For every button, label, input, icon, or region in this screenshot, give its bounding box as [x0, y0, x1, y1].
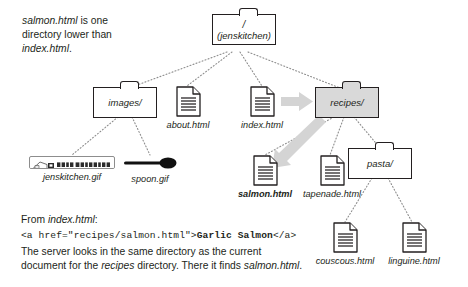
folder-tab-mask [343, 87, 360, 89]
node-about-file[interactable]: about.html [160, 86, 216, 131]
edge-recipes-tapenade [330, 117, 344, 155]
folder-label-recipes: recipes/ [330, 97, 363, 108]
edge-root-recipes [248, 52, 340, 88]
root-slash: / [217, 19, 271, 30]
caption-jenskitchen-gif: jenskitchen.gif [43, 172, 101, 183]
folder-icon-root: / (jenskitchen) [212, 14, 276, 45]
caption-salmon: salmon.html [238, 189, 292, 200]
folder-icon-pasta: pasta/ [348, 148, 412, 179]
edge-pasta-linguine [388, 178, 412, 222]
folder-label-root: / (jenskitchen) [217, 19, 271, 41]
file-icon-couscous [333, 222, 358, 253]
folder-tab-mask [376, 148, 393, 150]
edge-root-index [240, 52, 262, 86]
code-part-2: "> [185, 230, 197, 241]
node-salmon-file[interactable]: salmon.html [233, 155, 297, 200]
folder-tab-mask [240, 14, 257, 16]
node-spoon-gif[interactable]: spoon.gif [122, 155, 178, 185]
file-icon-linguine [402, 222, 427, 253]
node-images-folder[interactable]: images/ [93, 87, 157, 118]
edge-root-images [129, 52, 227, 88]
note-em-salmon: salmon.html [22, 15, 78, 26]
node-pasta-folder[interactable]: pasta/ [348, 148, 412, 179]
from-suffix: : [95, 214, 98, 225]
node-jenskitchen-gif[interactable]: jenskitchen.gif [24, 156, 120, 183]
body-2-em-salmon: salmon.html [244, 260, 300, 271]
code-part-3: </a> [273, 230, 296, 241]
note-top-left: salmon.html is one directory lower than … [22, 14, 172, 57]
note-em-index: index.html [22, 43, 69, 54]
node-root-folder[interactable]: / (jenskitchen) [212, 14, 276, 45]
file-icon-about [176, 86, 201, 117]
body-2-em-recipes: recipes [101, 260, 134, 271]
caption-tapenade: tapenade.html [303, 189, 361, 200]
caption-spoon-gif: spoon.gif [131, 174, 168, 185]
code-link-text: Garlic Salmon [197, 230, 273, 241]
root-label: (jenskitchen) [217, 30, 271, 41]
from-prefix: From [21, 214, 48, 225]
explanation-block: From index.html: <a href="recipes/salmon… [21, 213, 321, 274]
edge-root-about [187, 52, 232, 86]
body-2-c: . [299, 260, 302, 271]
image-jenskitchen-banner [29, 156, 115, 169]
diagram-canvas: / (jenskitchen) images/ [0, 0, 468, 287]
caption-couscous: couscous.html [316, 256, 375, 267]
node-couscous-file[interactable]: couscous.html [313, 222, 377, 267]
folder-label-pasta: pasta/ [367, 158, 393, 169]
node-linguine-file[interactable]: linguine.html [383, 222, 445, 267]
folder-icon-images: images/ [93, 87, 157, 118]
caption-linguine: linguine.html [388, 256, 440, 267]
code-snippet: <a href="recipes/salmon.html">Garlic Sal… [21, 230, 321, 241]
explanation-from-line: From index.html: [21, 213, 321, 227]
explanation-body: The server looks in the same directory a… [21, 245, 321, 273]
note-line-1-rest: is one [78, 15, 108, 26]
note-line-2: directory lower than [22, 28, 172, 42]
file-icon-salmon [253, 155, 278, 186]
caption-about: about.html [167, 120, 210, 131]
caption-index: index.html [241, 120, 283, 131]
file-icon-index [250, 86, 275, 117]
image-spoon [122, 155, 178, 171]
note-line-3: index.html. [22, 42, 172, 56]
folder-tab-mask [121, 87, 138, 89]
node-index-file[interactable]: index.html [234, 86, 290, 131]
file-icon-tapenade [320, 155, 345, 186]
node-recipes-folder[interactable]: recipes/ [315, 87, 379, 118]
note-line-3-rest: . [69, 43, 72, 54]
explanation-body-line-2: document for the recipes directory. Ther… [21, 259, 321, 273]
explanation-body-line-1: The server looks in the same directory a… [21, 245, 321, 259]
from-em-index: index.html [48, 214, 95, 225]
code-part-1: <a href=" [21, 230, 74, 241]
edge-images-spoon [132, 117, 150, 155]
note-line-1: salmon.html is one [22, 14, 172, 28]
body-2-a: document for the [21, 260, 101, 271]
edge-images-jenskitchen [72, 117, 118, 155]
code-path: recipes/salmon.html [74, 230, 185, 241]
folder-label-images: images/ [108, 97, 141, 108]
folder-icon-recipes: recipes/ [315, 87, 379, 118]
body-2-b: directory. There it finds [134, 260, 244, 271]
